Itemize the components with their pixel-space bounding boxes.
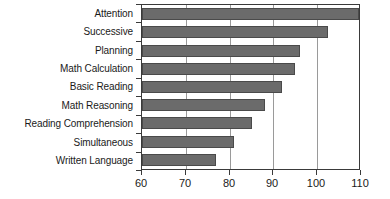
- bar: [142, 117, 252, 129]
- value-tick-90: [272, 170, 273, 175]
- category-label-text: Simultaneous: [74, 137, 133, 148]
- bar-row: [142, 41, 359, 59]
- category-label-successive: Successive: [0, 22, 137, 40]
- value-axis-label: 80: [223, 177, 235, 190]
- category-label-planning: Planning: [0, 41, 137, 59]
- bars-layer: [142, 5, 359, 169]
- category-label-text: Attention: [94, 8, 133, 19]
- value-axis-label: 70: [179, 177, 191, 190]
- category-label-math-reasoning: Math Reasoning: [0, 96, 137, 114]
- bar-row: [142, 114, 359, 132]
- bar-row: [142, 78, 359, 96]
- bar: [142, 136, 234, 148]
- bar-row: [142, 23, 359, 41]
- bar: [142, 45, 300, 57]
- category-label-basic-reading: Basic Reading: [0, 78, 137, 96]
- bar: [142, 81, 282, 93]
- category-label-reading-comprehension: Reading Comprehension: [0, 115, 137, 133]
- value-tick-110: [360, 170, 361, 175]
- value-tick-60: [141, 170, 142, 175]
- category-label-attention: Attention: [0, 4, 137, 22]
- category-label-written-language: Written Language: [0, 152, 137, 170]
- category-label-text: Successive: [83, 26, 133, 37]
- category-label-text: Math Calculation: [60, 63, 133, 74]
- bar-row: [142, 133, 359, 151]
- category-label-text: Reading Comprehension: [24, 118, 133, 129]
- value-axis-label: 90: [266, 177, 278, 190]
- bar-row: [142, 151, 359, 169]
- category-axis: Attention Successive Planning Math Calcu…: [0, 4, 137, 170]
- value-tick-80: [229, 170, 230, 175]
- bar: [142, 8, 359, 20]
- value-axis-label: 60: [135, 177, 147, 190]
- category-label-text: Basic Reading: [70, 81, 133, 92]
- value-axis-label: 100: [307, 177, 325, 190]
- value-tick-70: [185, 170, 186, 175]
- bar: [142, 26, 328, 38]
- bar-row: [142, 96, 359, 114]
- category-label-text: Planning: [95, 45, 133, 56]
- bar-row: [142, 60, 359, 78]
- bar: [142, 99, 265, 111]
- plot-area: [141, 4, 360, 170]
- bar: [142, 63, 295, 75]
- category-label-simultaneous: Simultaneous: [0, 133, 137, 151]
- bar-chart: Attention Successive Planning Math Calcu…: [0, 0, 390, 199]
- category-label-text: Written Language: [56, 155, 133, 166]
- value-axis-label: 110: [351, 177, 369, 190]
- value-tick-100: [316, 170, 317, 175]
- bar-row: [142, 5, 359, 23]
- category-label-text: Math Reasoning: [62, 100, 133, 111]
- bar: [142, 154, 216, 166]
- category-label-math-calculation: Math Calculation: [0, 59, 137, 77]
